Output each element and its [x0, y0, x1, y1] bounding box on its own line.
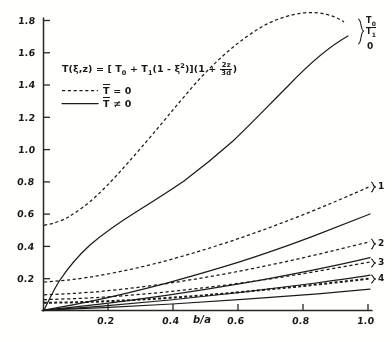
equation-paren-open: (1 - — [153, 63, 175, 74]
y-tick-label-0.4: 0.4 — [16, 241, 35, 252]
legend-solid-symbol: T — [103, 98, 110, 109]
y-tick-label-0.2: 0.2 — [16, 273, 35, 284]
curve-1-dashed — [44, 186, 370, 282]
x-tick-label-0.4: 0.4 — [161, 315, 180, 326]
legend-entry-dashed: T = 0 — [103, 85, 132, 96]
curve-label-3: 3 — [378, 257, 384, 267]
curve-0-dashed — [44, 13, 344, 226]
legend-solid-label: ≠ 0 — [113, 98, 131, 109]
brace-group-2 — [371, 239, 376, 249]
x-tick-label-1.0: 1.0 — [356, 315, 375, 326]
curve-label-2: 2 — [378, 238, 384, 248]
plot-canvas — [0, 0, 392, 342]
equation-tail: ) — [233, 63, 237, 74]
y-tick-label-1.4: 1.4 — [17, 79, 36, 90]
y-tick-marks — [44, 21, 51, 279]
figure-container: 1.8 1.6 1.4 1.2 1.0 0.8 0.6 0.4 0.2 0.2 … — [0, 0, 392, 342]
ratio-denominator: T1 — [366, 28, 376, 38]
y-tick-label-0.8: 0.8 — [16, 176, 35, 187]
equation-annotation: T(ξ,z) = [ T0 + T1(1 - ξ2)](1 + 2z3d) — [62, 62, 237, 77]
x-tick-label-0.2: 0.2 — [96, 315, 115, 326]
y-tick-label-1.6: 1.6 — [17, 47, 36, 58]
brace-group-1 — [371, 182, 376, 192]
legend-dashed-label: = 0 — [113, 85, 131, 96]
legend-entry-solid: T ≠ 0 — [103, 98, 132, 109]
y-tick-label-1.8: 1.8 — [17, 15, 36, 26]
brace-group-3 — [371, 259, 376, 267]
equation-comma-z: ,z) = [ T — [79, 63, 122, 74]
brace-group-4 — [371, 275, 376, 283]
equation-paren-close: )](1 + — [185, 63, 220, 74]
curve-label-4: 4 — [378, 273, 384, 283]
y-tick-label-1.2: 1.2 — [17, 112, 36, 123]
curve-label-1: 1 — [378, 181, 384, 191]
ratio-annotation: T0 T1 — [366, 17, 376, 37]
equation-plus: + T — [126, 63, 147, 74]
y-tick-label-1.0: 1.0 — [17, 144, 36, 155]
equation-fraction: 2z3d — [220, 62, 232, 77]
brace-group-0 — [358, 19, 364, 44]
curve-label-0: 0 — [367, 41, 373, 51]
y-tick-label-0.6: 0.6 — [16, 208, 35, 219]
x-tick-label-0.8: 0.8 — [291, 315, 310, 326]
x-axis-title: b/a — [193, 314, 211, 325]
x-tick-label-0.6: 0.6 — [226, 315, 245, 326]
legend-dashed-symbol: T — [103, 85, 110, 96]
equation-lhs: T( — [62, 63, 73, 74]
equation-fraction-denominator: 3d — [220, 70, 232, 77]
